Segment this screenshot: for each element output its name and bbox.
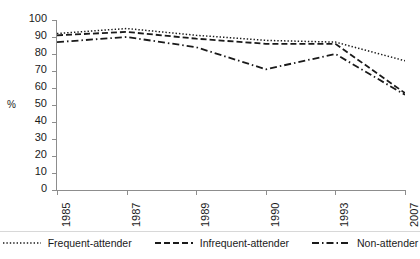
y-axis-tick-label: 90 <box>35 30 47 41</box>
x-axis-tick-mark <box>335 190 336 195</box>
legend-label: Non-attender <box>357 238 418 249</box>
x-axis-line <box>56 190 406 191</box>
legend-item-frequent-attender[interactable]: Frequent-attender <box>2 238 132 249</box>
x-axis-tick-mark <box>196 190 197 195</box>
y-axis-tick-label: 100 <box>29 13 47 24</box>
legend-swatch-dotted <box>2 239 42 247</box>
series-line-non-attender <box>57 37 405 95</box>
plot-area <box>57 20 405 190</box>
x-axis-tick-label: 1989 <box>200 203 211 227</box>
legend-item-non-attender[interactable]: Non-attender <box>311 238 418 249</box>
x-axis-tick-label: 1987 <box>131 203 142 227</box>
x-axis-tick-label: 1990 <box>270 203 281 227</box>
legend-item-infrequent-attender[interactable]: Infrequent-attender <box>154 238 289 249</box>
chart-container: % 0102030405060708090100 198519871989199… <box>0 0 420 259</box>
x-axis-tick-mark <box>266 190 267 195</box>
legend-divider <box>0 231 420 232</box>
y-axis-tick-label: 60 <box>35 81 47 92</box>
x-axis-tick-label: 1993 <box>339 203 350 227</box>
y-axis-tick-label: 10 <box>35 166 47 177</box>
x-axis-tick-label: 1985 <box>61 203 72 227</box>
series-lines <box>57 20 405 190</box>
series-line-infrequent-attender <box>57 32 405 93</box>
legend-label: Frequent-attender <box>48 238 132 249</box>
y-axis-tick-label: 50 <box>35 98 47 109</box>
y-axis-tick-label: 30 <box>35 132 47 143</box>
y-axis-tick-label: 80 <box>35 47 47 58</box>
legend-swatch-dashed <box>154 239 194 247</box>
legend-swatch-dash-dot <box>311 239 351 247</box>
x-axis-tick-mark <box>127 190 128 195</box>
legend-label: Infrequent-attender <box>200 238 289 249</box>
chart-legend: Frequent-attenderInfrequent-attenderNon-… <box>0 233 420 253</box>
x-axis-tick-mark <box>57 190 58 195</box>
y-axis-label: % <box>7 100 16 110</box>
y-axis-tick-label: 0 <box>41 183 47 194</box>
y-axis-tick-label: 40 <box>35 115 47 126</box>
y-axis-tick-label: 20 <box>35 149 47 160</box>
x-axis-tick-mark <box>405 190 406 195</box>
x-axis-tick-label: 2007 <box>409 203 420 227</box>
y-axis-tick-label: 70 <box>35 64 47 75</box>
